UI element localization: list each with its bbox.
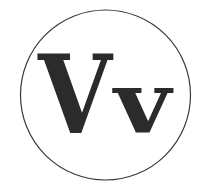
vv-logo: V v — [0, 0, 207, 192]
big-letter-v: V — [37, 32, 114, 158]
small-letter-v: v — [112, 52, 175, 153]
